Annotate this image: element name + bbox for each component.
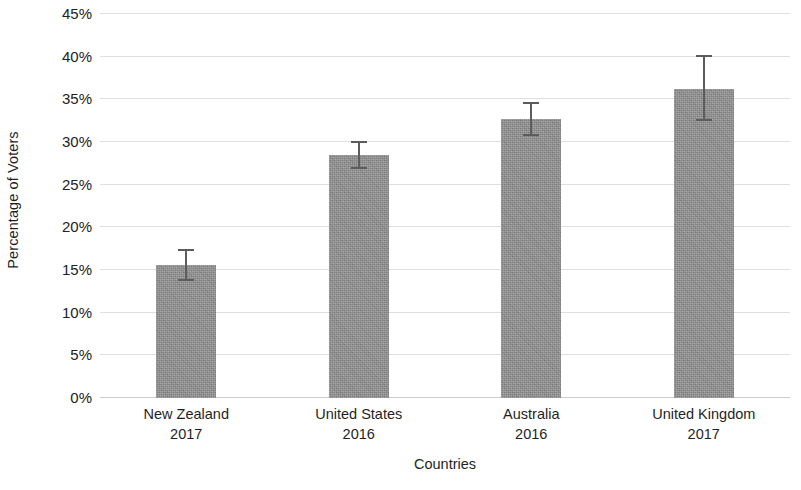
x-axis-tick-labels: New Zealand2017United States2016Australi… [100,404,790,452]
y-axis-tick-label: 15% [34,261,92,278]
y-axis-tick-label: 45% [34,5,92,22]
y-axis-tick-label: 5% [34,346,92,363]
plot-area [100,0,790,398]
x-axis-tick-label-year: 2016 [503,424,559,444]
x-axis-tick-label-year: 2017 [652,424,755,444]
error-bar [351,141,367,169]
error-bar-cap-top [351,141,367,143]
error-bar-cap-bottom [523,134,539,136]
x-axis-title: Countries [100,456,790,472]
x-axis-tick-label-country: United Kingdom [652,406,755,422]
error-bar-line [703,55,705,122]
x-axis-tick-label-year: 2017 [144,424,229,444]
bar-group [100,0,273,398]
error-bar-line [358,141,360,169]
error-bar-cap-bottom [178,279,194,281]
x-axis-tick-label-year: 2016 [315,424,402,444]
error-bar [178,249,194,281]
bar-group [618,0,791,398]
x-axis-tick-label-country: New Zealand [144,406,229,422]
y-axis-tick-labels: 45%40%35%30%25%20%15%10%5%0% [30,0,92,410]
error-bar-cap-top [696,55,712,57]
y-axis-tick-label: 10% [34,303,92,320]
bar-group [273,0,446,398]
y-axis-tick-label: 40% [34,47,92,64]
bar[interactable] [674,89,734,398]
bar-group [445,0,618,398]
y-axis-tick-label: 20% [34,218,92,235]
error-bar-cap-top [523,102,539,104]
y-axis-tick-label: 30% [34,133,92,150]
error-bar [523,102,539,136]
error-bar-cap-bottom [696,119,712,121]
x-axis-tick-label: New Zealand2017 [144,404,229,444]
y-axis-tick-label: 25% [34,175,92,192]
error-bar-cap-top [178,249,194,251]
y-axis-title: Percentage of Voters [0,0,26,400]
bar-chart: Percentage of Voters 45%40%35%30%25%20%1… [0,0,801,490]
x-axis-tick-label: Australia2016 [503,404,559,444]
y-axis-tick-label: 0% [34,389,92,406]
x-axis-tick-label: United States2016 [315,404,402,444]
x-axis-tick-label-country: United States [315,406,402,422]
error-bar-line [185,249,187,281]
x-axis-tick-label-country: Australia [503,406,559,422]
bar[interactable] [329,155,389,398]
y-axis-title-text: Percentage of Voters [5,131,21,268]
error-bar [696,55,712,122]
y-axis-tick-label: 35% [34,90,92,107]
bar[interactable] [501,119,561,398]
error-bar-cap-bottom [351,167,367,169]
x-axis-tick-label: United Kingdom2017 [652,404,755,444]
bar[interactable] [156,265,216,398]
error-bar-line [530,102,532,136]
